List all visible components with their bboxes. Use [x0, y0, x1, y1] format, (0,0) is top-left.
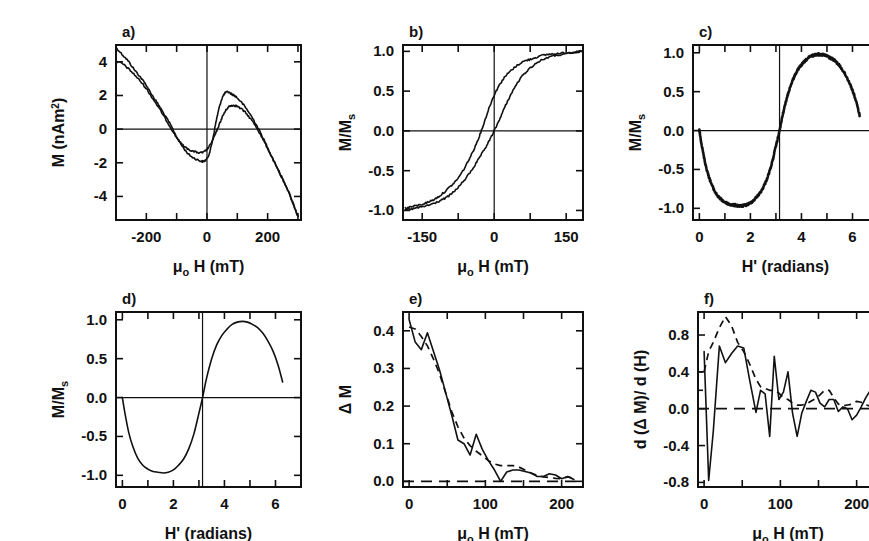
x-tick-label: 0 — [405, 495, 413, 512]
panel-a: a)-2000200-4-2024μo H (mT)M (nAm2) — [0, 0, 290, 272]
y-tick-label: -0.8 — [663, 473, 689, 490]
plot-frame — [698, 312, 869, 487]
y-tick-label: 1.0 — [663, 44, 684, 61]
x-tick-label: 2 — [169, 495, 177, 512]
x-tick-label: 4 — [797, 228, 806, 245]
series-2-path — [405, 51, 581, 210]
y-tick-label: 0.0 — [373, 122, 394, 139]
y-tick-label: 4 — [99, 53, 108, 70]
y-tick-label: 0 — [99, 120, 107, 137]
y-tick-label: 0.1 — [373, 435, 394, 452]
x-tick-label: 4 — [220, 495, 229, 512]
y-tick-label: 0.5 — [373, 82, 394, 99]
y-axis-label: M (nAm2) — [50, 98, 67, 168]
x-tick-label: -200 — [131, 228, 161, 245]
x-tick-label: 0 — [695, 228, 703, 245]
x-tick-label: 200 — [844, 495, 869, 512]
plot-frame — [116, 312, 301, 487]
series-1-path — [409, 320, 574, 482]
panel-letter: a) — [122, 23, 135, 40]
y-axis-label: Δ M — [337, 385, 354, 414]
y-tick-label: 0.0 — [373, 472, 394, 489]
panel-e: e)01002000.00.10.20.30.4μo H (mT)Δ M — [290, 272, 580, 541]
x-tick-label: 150 — [554, 228, 579, 245]
series-1-path — [704, 346, 869, 480]
y-tick-label: 0.4 — [373, 322, 395, 339]
y-tick-label: -1.0 — [658, 199, 684, 216]
panel-letter: f) — [704, 290, 714, 307]
y-tick-label: 0.2 — [373, 397, 394, 414]
x-tick-label: 6 — [271, 495, 279, 512]
panel-letter: d) — [122, 290, 136, 307]
panel-f: f)0100200-0.8-0.40.00.40.8μo H (mT)d (Δ … — [580, 272, 869, 541]
y-tick-label: -4 — [94, 187, 108, 204]
x-tick-label: 2 — [746, 228, 754, 245]
x-tick-label: 200 — [549, 495, 574, 512]
y-tick-label: -0.5 — [658, 160, 684, 177]
y-tick-label: 0.0 — [663, 122, 684, 139]
panel-letter: e) — [409, 290, 422, 307]
x-tick-label: 100 — [768, 495, 793, 512]
y-tick-label: 2 — [99, 86, 107, 103]
y-tick-label: -0.4 — [663, 437, 690, 454]
y-tick-label: 0.0 — [86, 389, 107, 406]
y-tick-label: 0.3 — [373, 359, 394, 376]
series-1-path — [405, 51, 581, 209]
panel-letter: c) — [699, 23, 712, 40]
x-tick-label: 0 — [490, 228, 498, 245]
y-tick-label: 1.0 — [86, 311, 107, 328]
x-tick-label: 200 — [255, 228, 280, 245]
y-tick-label: -0.5 — [81, 427, 107, 444]
y-tick-label: 0.0 — [668, 400, 689, 417]
series-2-path — [704, 317, 869, 406]
x-axis-label: H' (radians) — [165, 525, 252, 541]
y-tick-label: 1.0 — [373, 42, 394, 59]
plot-frame — [116, 45, 301, 220]
x-axis-label: μo H (mT) — [752, 525, 824, 541]
x-axis-label: μo H (mT) — [457, 525, 529, 541]
panel-d: d)0246-1.0-0.50.00.51.0H' (radians)M/Ms — [0, 272, 290, 541]
x-tick-label: 100 — [473, 495, 498, 512]
y-tick-label: -1.0 — [368, 201, 394, 218]
panel-letter: b) — [409, 23, 423, 40]
y-tick-label: 0.5 — [663, 83, 684, 100]
x-tick-label: 6 — [848, 228, 856, 245]
y-axis-label: d (Δ M)/ d (H) — [632, 350, 649, 449]
y-axis-label: M/Ms — [337, 114, 357, 151]
series-2-path — [409, 327, 574, 479]
y-tick-label: -0.5 — [368, 162, 394, 179]
y-tick-label: 0.8 — [668, 326, 689, 343]
y-axis-label: M/Ms — [627, 114, 647, 151]
panel-c: c)0246-1.0-0.50.00.51.0H' (radians)M/Ms — [580, 0, 869, 272]
x-tick-label: 0 — [118, 495, 126, 512]
figure-root: a)-2000200-4-2024μo H (mT)M (nAm2)b)-150… — [0, 0, 869, 541]
x-tick-label: -150 — [407, 228, 437, 245]
y-tick-label: -1.0 — [81, 466, 107, 483]
y-tick-label: 0.4 — [668, 363, 690, 380]
x-tick-label: 0 — [203, 228, 211, 245]
y-axis-label: M/Ms — [50, 381, 70, 418]
y-tick-label: 0.5 — [86, 350, 107, 367]
x-tick-label: 0 — [700, 495, 708, 512]
panel-b: b)-1500150-1.0-0.50.00.51.0μo H (mT)M/Ms — [290, 0, 580, 272]
y-tick-label: -2 — [94, 154, 107, 171]
